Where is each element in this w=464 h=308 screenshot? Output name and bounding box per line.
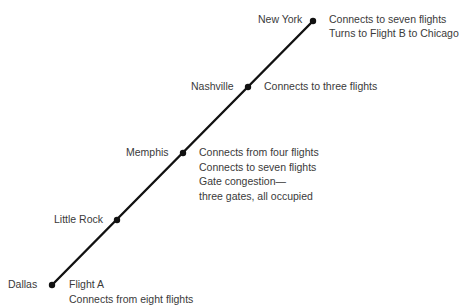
memphis-stop-dot xyxy=(180,150,186,156)
memphis-note-1: Connects from four flights xyxy=(199,145,319,160)
dallas-stop-dot xyxy=(49,282,55,288)
dallas-note-1: Flight A xyxy=(69,277,104,292)
nashville-label: Nashville xyxy=(191,79,234,94)
nashville-note-1: Connects to three flights xyxy=(264,79,377,94)
little-rock-label: Little Rock xyxy=(54,212,103,227)
memphis-note-2: Connects to seven flights xyxy=(199,160,316,175)
memphis-note-4: three gates, all occupied xyxy=(199,189,313,204)
new-york-note-2: Turns to Flight B to Chicago xyxy=(329,26,459,41)
new-york-label: New York xyxy=(258,12,302,27)
memphis-label: Memphis xyxy=(126,145,169,160)
memphis-note-3: Gate congestion— xyxy=(199,174,286,189)
new-york-note-1: Connects to seven flights xyxy=(329,12,446,27)
new-york-stop-dot xyxy=(310,18,316,24)
little-rock-stop-dot xyxy=(114,217,120,223)
nashville-stop-dot xyxy=(245,84,251,90)
dallas-note-2: Connects from eight flights xyxy=(69,292,193,307)
dallas-label: Dallas xyxy=(8,277,37,292)
flight-route-diagram: New York Connects to seven flights Turns… xyxy=(0,0,464,308)
